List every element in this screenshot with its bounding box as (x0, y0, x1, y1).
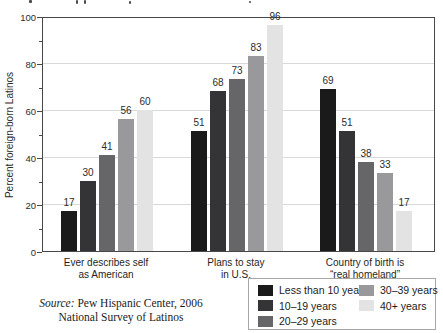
source-label: Source: (39, 297, 74, 309)
bar (99, 155, 115, 251)
legend-label: 30–39 years (380, 284, 438, 296)
y-minor-tick (39, 88, 42, 89)
y-tick-label: 60 (10, 107, 36, 117)
bar (229, 79, 245, 251)
bar (377, 173, 393, 251)
y-tick-label: 40 (10, 154, 36, 164)
legend-swatch (359, 285, 374, 296)
legend: Less than 10 years10–19 years20–29 years… (248, 278, 436, 330)
bar (339, 131, 355, 251)
legend-label: 40+ years (380, 300, 426, 312)
bar-value-label: 30 (76, 168, 100, 178)
source-line-2: National Survey of Latinos (30, 310, 212, 324)
cropped-title-fragment (76, 0, 78, 4)
y-tick (37, 205, 42, 206)
bar-value-label: 56 (114, 106, 138, 116)
cropped-title-fragment (249, 1, 251, 3)
y-axis-title: Percent foreign-born Latinos (3, 71, 14, 197)
bar-chart-figure: Percent foreign-born Latinos 17516930685… (0, 0, 443, 333)
legend-item: 40+ years (359, 300, 426, 312)
y-tick-label: 20 (10, 201, 36, 211)
bar (210, 91, 226, 251)
legend-swatch (359, 300, 374, 311)
y-minor-tick (39, 41, 42, 42)
source-line-1: Source: Pew Hispanic Center, 2006 (30, 296, 212, 310)
bar-value-label: 17 (392, 198, 416, 208)
bar (80, 181, 96, 252)
bar-value-label: 83 (244, 43, 268, 53)
bar-value-label: 17 (57, 198, 81, 208)
y-tick (37, 64, 42, 65)
bar (118, 119, 134, 251)
bar-value-label: 68 (206, 78, 230, 88)
y-tick-label: 80 (10, 60, 36, 70)
legend-label: 10–19 years (279, 300, 337, 312)
x-category-label: Country of birth is“real homeland” (290, 257, 440, 280)
y-tick-label: 100 (10, 13, 36, 23)
bar-value-label: 69 (316, 76, 340, 86)
y-tick (37, 252, 42, 253)
y-minor-tick (39, 182, 42, 183)
bar-value-label: 73 (225, 66, 249, 76)
y-tick (37, 158, 42, 159)
legend-swatch (258, 285, 273, 296)
legend-swatch (258, 300, 273, 311)
y-axis-title-wrap: Percent foreign-born Latinos (0, 17, 17, 252)
y-tick (37, 111, 42, 112)
legend-item: 10–19 years (258, 300, 337, 312)
cropped-title-fragment (29, 0, 32, 3)
y-minor-tick (39, 135, 42, 136)
legend-swatch (258, 316, 273, 327)
source-note: Source: Pew Hispanic Center, 2006 Nation… (30, 296, 212, 324)
bar (358, 162, 374, 251)
bar (396, 211, 412, 251)
y-tick-label: 0 (10, 248, 36, 258)
bar (191, 131, 207, 251)
bar-value-label: 38 (354, 149, 378, 159)
cropped-title-fragment (129, 1, 131, 4)
bar (267, 25, 283, 251)
bar (137, 110, 153, 251)
bar (320, 89, 336, 251)
bar-value-label: 51 (187, 118, 211, 128)
bar-value-label: 41 (95, 142, 119, 152)
bar (61, 211, 77, 251)
legend-item: 20–29 years (258, 315, 337, 327)
y-minor-tick (39, 229, 42, 230)
x-category-label: Plans to stayin U.S. (161, 257, 311, 280)
bar-value-label: 33 (373, 160, 397, 170)
legend-label: 20–29 years (279, 315, 337, 327)
plot-area: 175169306851417338568333609617 (42, 17, 435, 252)
gridline (43, 63, 434, 64)
bar-value-label: 51 (335, 118, 359, 128)
bar-value-label: 96 (263, 12, 287, 22)
bar-value-label: 60 (133, 97, 157, 107)
legend-item: 30–39 years (359, 284, 438, 296)
y-tick (37, 17, 42, 18)
source-text: Pew Hispanic Center, 2006 (77, 297, 202, 309)
legend-item: Less than 10 years (258, 284, 368, 296)
cropped-title-fragment (84, 0, 86, 4)
x-category-label: Ever describes selfas American (31, 257, 181, 280)
legend-label: Less than 10 years (279, 284, 368, 296)
bar (248, 56, 264, 251)
